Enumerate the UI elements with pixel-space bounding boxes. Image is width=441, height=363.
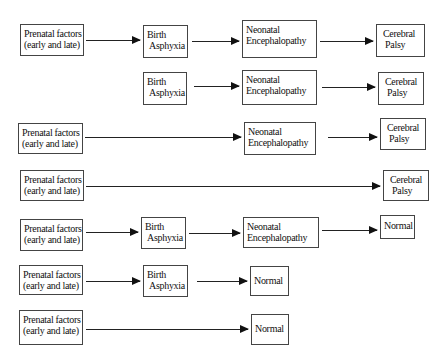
- box-label-line: Prenatal factors: [24, 223, 80, 234]
- box-label-line: Prenatal factors: [23, 269, 80, 280]
- box-label-line: Palsy: [383, 39, 422, 50]
- box-label-line: Encephalopathy: [246, 85, 314, 96]
- box-label-line: Asphyxia: [147, 280, 185, 291]
- birth-asphyxia-box: BirthAsphyxia: [143, 265, 188, 297]
- prenatal-factors-box: Prenatal factors(early and late): [19, 265, 83, 295]
- arrow-right-icon: [86, 281, 140, 282]
- box-label-line: Asphyxia: [147, 40, 185, 51]
- neonatal-encephalopathy-box: NeonatalEncephalopathy: [244, 122, 316, 155]
- box-label-line: Encephalopathy: [248, 137, 313, 148]
- box-label-line: Normal: [254, 275, 286, 286]
- box-label-line: Birth: [147, 269, 185, 280]
- birth-asphyxia-box: BirthAsphyxia: [143, 72, 187, 105]
- box-label-line: Neonatal: [246, 74, 314, 85]
- box-label-line: Palsy: [387, 133, 423, 144]
- neonatal-encephalopathy-box: NeonatalEncephalopathy: [242, 20, 317, 58]
- box-label-line: Birth: [147, 76, 184, 87]
- flow-diagram: Prenatal factors(early and late)BirthAsp…: [0, 0, 441, 363]
- prenatal-factors-box: Prenatal factors(early and late): [19, 310, 83, 345]
- box-label-line: Asphyxia: [145, 232, 183, 243]
- cerebral-palsy-box: CerebralPalsy: [378, 72, 424, 105]
- box-label-line: Encephalopathy: [247, 232, 316, 243]
- arrow-right-icon: [189, 233, 240, 234]
- prenatal-factors-box: Prenatal factors(early and late): [20, 219, 83, 251]
- arrow-right-icon: [86, 40, 140, 41]
- arrow-right-icon: [86, 232, 138, 233]
- arrow-right-icon: [328, 137, 377, 138]
- prenatal-factors-box: Prenatal factors(early and late): [18, 123, 83, 154]
- neonatal-encephalopathy-box: NeonatalEncephalopathy: [243, 217, 319, 248]
- arrow-right-icon: [194, 86, 239, 87]
- cerebral-palsy-box: CerebralPalsy: [383, 170, 429, 201]
- normal-outcome-box: Normal: [380, 215, 415, 239]
- box-label-line: (early and late): [24, 185, 81, 196]
- arrow-right-icon: [85, 137, 241, 138]
- prenatal-factors-box: Prenatal factors(early and late): [20, 170, 84, 201]
- arrow-right-icon: [322, 230, 377, 231]
- box-label-line: Cerebral: [390, 174, 426, 185]
- box-label-line: Cerebral: [385, 76, 421, 87]
- arrow-right-icon: [86, 186, 380, 187]
- box-label-line: Encephalopathy: [246, 35, 314, 46]
- arrow-right-icon: [322, 87, 375, 88]
- box-label-line: Neonatal: [246, 24, 314, 35]
- box-label-line: (early and late): [23, 325, 80, 336]
- box-label-line: Palsy: [385, 87, 421, 98]
- box-label-line: Asphyxia: [147, 87, 184, 98]
- box-label-line: Cerebral: [383, 28, 422, 39]
- arrow-right-icon: [320, 41, 373, 42]
- box-label-line: (early and late): [23, 280, 80, 291]
- arrow-right-icon: [192, 41, 239, 42]
- box-label-line: Cerebral: [387, 122, 423, 133]
- arrow-right-icon: [197, 281, 247, 282]
- box-label-line: (early and late): [24, 234, 80, 245]
- box-label-line: Normal: [384, 220, 412, 231]
- box-label-line: Neonatal: [248, 126, 313, 137]
- box-label-line: Prenatal factors: [22, 127, 80, 138]
- box-label-line: (early and late): [24, 39, 81, 50]
- cerebral-palsy-box: CerebralPalsy: [376, 24, 425, 57]
- box-label-line: Prenatal factors: [24, 174, 81, 185]
- box-label-line: Normal: [255, 323, 286, 334]
- arrow-right-icon: [86, 329, 248, 330]
- box-label-line: Palsy: [390, 185, 426, 196]
- box-label-line: Birth: [145, 221, 183, 232]
- box-label-line: Neonatal: [247, 221, 316, 232]
- cerebral-palsy-box: CerebralPalsy: [380, 118, 426, 150]
- box-label-line: (early and late): [22, 138, 80, 149]
- normal-outcome-box: Normal: [251, 314, 289, 345]
- neonatal-encephalopathy-box: NeonatalEncephalopathy: [242, 70, 317, 105]
- box-label-line: Prenatal factors: [24, 28, 81, 39]
- birth-asphyxia-box: BirthAsphyxia: [143, 25, 188, 58]
- birth-asphyxia-box: BirthAsphyxia: [141, 217, 186, 249]
- normal-outcome-box: Normal: [250, 266, 289, 296]
- box-label-line: Prenatal factors: [23, 314, 80, 325]
- prenatal-factors-box: Prenatal factors(early and late): [20, 24, 84, 56]
- box-label-line: Birth: [147, 29, 185, 40]
